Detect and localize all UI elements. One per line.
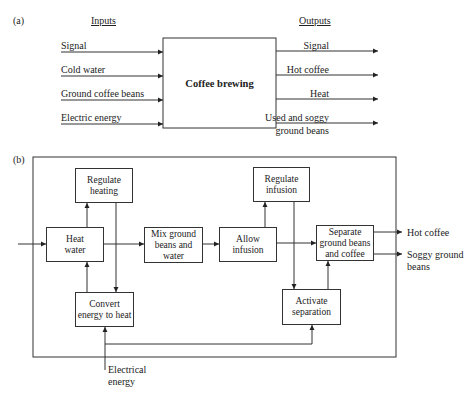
regulate-infusion-line-2: infusion (266, 185, 297, 195)
input-electrical-2: energy (108, 376, 135, 387)
separate-line-2: ground beans (320, 238, 371, 248)
separate-line-1: Separate (329, 227, 362, 237)
allow-infusion-line-2: infusion (232, 245, 263, 255)
regulate-heating-line-2: heating (90, 186, 118, 196)
regulate-infusion-line-1: Regulate (265, 174, 299, 184)
output-signal: Signal (229, 40, 329, 51)
mix-line-1: Mix ground (151, 229, 196, 239)
activate-separation-line-2: separation (292, 307, 331, 317)
separate-line-3: and coffee (325, 249, 365, 259)
box-separate: Separateground beansand coffee (316, 225, 374, 261)
input-electrical-1: Electrical (108, 364, 146, 375)
convert-energy-line-1: Convert (89, 299, 120, 309)
box-activate-separation: Activateseparation (282, 289, 341, 325)
box-allow-infusion: Allowinfusion (219, 227, 277, 262)
box-convert-energy: Convertenergy to heat (75, 292, 134, 327)
inputs-header: Inputs (91, 15, 116, 26)
output-used-soggy-2: ground beans (229, 125, 329, 136)
output-used-soggy-1: Used and soggy (229, 112, 329, 123)
heat-water-line-2: water (64, 245, 85, 255)
input-electric-energy: Electric energy (61, 112, 122, 123)
box-regulate-heating: Regulateheating (75, 168, 133, 203)
convert-energy-line-2: energy to heat (78, 310, 132, 320)
box-heat-water: Heatwater (46, 227, 104, 262)
output-heat: Heat (229, 88, 329, 99)
input-signal: Signal (61, 40, 87, 51)
mix-line-3: water (163, 251, 184, 261)
part-b-label: (b) (13, 154, 25, 165)
regulate-heating-line-1: Regulate (87, 175, 121, 185)
box-regulate-infusion: Regulateinfusion (253, 167, 310, 202)
activate-separation-line-1: Activate (295, 296, 327, 306)
output-hot-coffee-b: Hot coffee (407, 227, 449, 238)
part-a-label: (a) (13, 15, 24, 26)
output-soggy-1: Soggy ground (407, 249, 463, 260)
output-hot-coffee: Hot coffee (229, 64, 329, 75)
input-ground-coffee-beans: Ground coffee beans (61, 88, 144, 99)
input-cold-water: Cold water (61, 64, 105, 75)
outputs-header: Outputs (299, 15, 331, 26)
allow-infusion-line-1: Allow (236, 234, 260, 244)
box-mix-ground-beans: Mix groundbeans andwater (144, 227, 203, 263)
heat-water-line-1: Heat (66, 234, 84, 244)
mix-line-2: beans and (155, 240, 193, 250)
output-soggy-2: beans (407, 261, 430, 272)
